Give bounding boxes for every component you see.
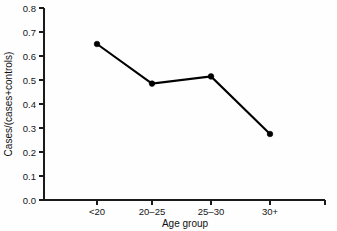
x-tick-label-lt20: <20 — [89, 206, 105, 217]
y-tick-label-0.0: 0.0 — [23, 195, 36, 206]
x-axis-title: Age group — [162, 218, 209, 229]
data-point-30plus — [267, 131, 273, 137]
data-point-lt20 — [94, 41, 100, 47]
plot-background — [0, 0, 337, 231]
data-point-20-25 — [149, 81, 155, 87]
y-tick-label-0.6: 0.6 — [23, 51, 36, 62]
data-point-25-30 — [208, 74, 214, 80]
y-tick-label-0.7: 0.7 — [23, 27, 36, 38]
y-tick-label-0.3: 0.3 — [23, 123, 36, 134]
y-axis-title: Cases/(cases+controls) — [3, 52, 14, 157]
y-tick-label-0.5: 0.5 — [23, 75, 36, 86]
x-tick-label-25-30: 25–30 — [198, 206, 224, 217]
chart-figure: 0.8 0.7 0.6 0.5 0.4 0.3 0.2 0.1 0.0 <20 … — [0, 0, 337, 231]
y-tick-label-0.2: 0.2 — [23, 147, 36, 158]
y-tick-label-0.1: 0.1 — [23, 171, 36, 182]
x-tick-label-30plus: 30+ — [262, 206, 279, 217]
line-chart-plot: 0.8 0.7 0.6 0.5 0.4 0.3 0.2 0.1 0.0 <20 … — [0, 0, 337, 231]
x-tick-label-20-25: 20–25 — [139, 206, 165, 217]
y-tick-label-0.8: 0.8 — [23, 3, 36, 14]
y-tick-labels: 0.8 0.7 0.6 0.5 0.4 0.3 0.2 0.1 0.0 — [23, 3, 36, 206]
y-tick-label-0.4: 0.4 — [23, 99, 36, 110]
